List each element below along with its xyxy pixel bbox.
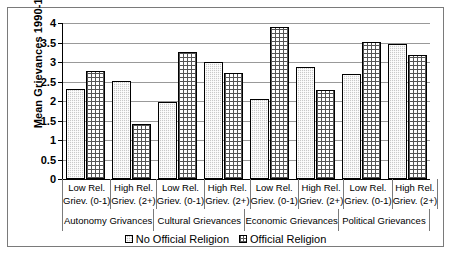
- category-label-line: Low Rel.: [350, 181, 387, 194]
- bar-official-religion[interactable]: [132, 124, 151, 179]
- y-axis-tick-label: 1.5: [41, 115, 56, 127]
- category-label-line: Griev. (2+): [111, 194, 155, 207]
- category-label-line: High Rel.: [302, 181, 341, 194]
- chart-legend: No Official ReligionOfficial Religion: [8, 233, 443, 245]
- plot-area: 43.532.521.510.50: [62, 23, 430, 179]
- bar-group: [246, 23, 292, 179]
- category-label-line: Griev. (0-1): [63, 194, 110, 207]
- category-label: High Rel.Griev. (2+): [393, 179, 438, 209]
- bar-no-official-religion[interactable]: [342, 74, 361, 179]
- category-label: Low Rel.Griev. (0-1): [157, 179, 205, 209]
- bar-series-container: [62, 23, 430, 179]
- bar-group: [292, 23, 338, 179]
- bar-group: [200, 23, 246, 179]
- category-label-line: Low Rel.: [162, 181, 199, 194]
- category-label-line: Griev. (2+): [299, 194, 343, 207]
- category-label-line: Low Rel.: [68, 181, 105, 194]
- dotted-fill-swatch: [125, 235, 133, 243]
- category-label-line: High Rel.: [395, 181, 434, 194]
- bar-group: [108, 23, 154, 179]
- bar-group: [384, 23, 430, 179]
- y-axis-tick-label: 2.5: [41, 76, 56, 88]
- category-label-line: High Rel.: [114, 181, 153, 194]
- chart-frame: Mean Grievances 1990-1995 43.532.521.510…: [7, 7, 444, 247]
- bar-group: [338, 23, 384, 179]
- category-label-line: Griev. (0-1): [157, 194, 204, 207]
- y-axis-tick-label: 2: [50, 95, 56, 107]
- category-labels: Low Rel.Griev. (0-1)High Rel.Griev. (2+)…: [62, 179, 430, 209]
- bar-no-official-religion[interactable]: [112, 81, 131, 179]
- category-label: High Rel.Griev. (2+): [299, 179, 344, 209]
- category-label: Low Rel.Griev. (0-1): [62, 179, 111, 209]
- bar-no-official-religion[interactable]: [66, 89, 85, 179]
- bar-no-official-religion[interactable]: [296, 67, 315, 179]
- group-label: Political Grievances: [339, 209, 430, 231]
- category-label: Low Rel.Griev. (0-1): [344, 179, 392, 209]
- bar-group: [154, 23, 200, 179]
- bar-official-religion[interactable]: [316, 90, 335, 179]
- category-label-line: Griev. (2+): [205, 194, 249, 207]
- y-axis-tick-label: 3: [50, 56, 56, 68]
- bar-official-religion[interactable]: [86, 71, 105, 179]
- bar-official-religion[interactable]: [362, 42, 381, 179]
- bar-no-official-religion[interactable]: [388, 44, 407, 179]
- legend-label: No Official Religion: [136, 233, 229, 245]
- legend-item[interactable]: No Official Religion: [125, 233, 229, 245]
- bar-official-religion[interactable]: [178, 52, 197, 179]
- legend-label: Official Religion: [250, 233, 326, 245]
- y-axis-tick-label: 3.5: [41, 37, 56, 49]
- group-label: Economic Grievances: [245, 209, 338, 231]
- category-label: High Rel.Griev. (2+): [111, 179, 156, 209]
- y-axis-tick-label: 1: [50, 134, 56, 146]
- bar-no-official-religion[interactable]: [158, 102, 177, 179]
- category-label-line: Griev. (0-1): [251, 194, 298, 207]
- category-label-line: Low Rel.: [256, 181, 293, 194]
- group-labels: Autonomy GrivancesCultural GrievancesEco…: [62, 209, 430, 231]
- bar-group: [62, 23, 108, 179]
- category-label-line: Griev. (2+): [393, 194, 437, 207]
- category-label-line: High Rel.: [208, 181, 247, 194]
- y-axis-tick-label: 4: [50, 17, 56, 29]
- bar-no-official-religion[interactable]: [250, 99, 269, 179]
- grid-fill-swatch: [239, 235, 247, 243]
- category-label: Low Rel.Griev. (0-1): [251, 179, 299, 209]
- bar-official-religion[interactable]: [408, 55, 427, 179]
- legend-item[interactable]: Official Religion: [239, 233, 326, 245]
- y-axis-tick-label: 0.5: [41, 154, 56, 166]
- bar-official-religion[interactable]: [270, 27, 289, 179]
- bar-official-religion[interactable]: [224, 73, 243, 179]
- group-label: Autonomy Grivances: [62, 209, 154, 231]
- category-label-line: Griev. (0-1): [344, 194, 391, 207]
- group-label: Cultural Grievances: [154, 209, 245, 231]
- y-axis-tick-label: 0: [50, 173, 56, 185]
- category-label: High Rel.Griev. (2+): [205, 179, 250, 209]
- bar-no-official-religion[interactable]: [204, 62, 223, 179]
